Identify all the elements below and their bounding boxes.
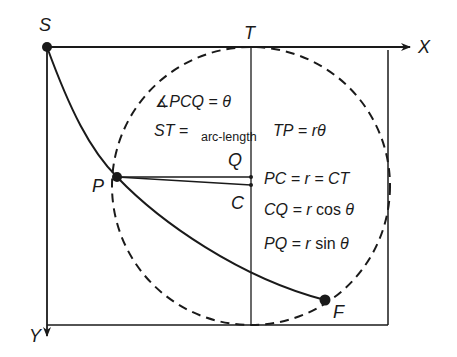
arc-length-subscript: arc-length (201, 130, 257, 144)
angle-symbol: ∡ (155, 93, 169, 110)
point-s (42, 42, 52, 52)
label-s: S (39, 15, 51, 35)
equation-pq: PQ = r sin θ (264, 235, 349, 252)
label-f: F (333, 302, 345, 322)
equation-angle-pcq: ∡PCQ = θ (155, 93, 231, 110)
point-f (320, 295, 331, 306)
label-p: P (92, 176, 104, 196)
equation-pc: PC = r = CT (264, 170, 351, 187)
label-t: T (244, 23, 257, 43)
label-c: C (231, 193, 245, 213)
point-p (112, 172, 122, 182)
point-c (249, 183, 253, 187)
equation-tp: TP = rθ (273, 122, 326, 139)
cycloid-diagram: S T X Y P Q C F ∡PCQ = θ ST = arc-length… (0, 0, 457, 357)
label-q: Q (228, 150, 242, 170)
label-y: Y (29, 326, 43, 346)
equation-st-arc-length: ST = (154, 122, 188, 139)
segment-pc (117, 177, 251, 185)
equation-cq: CQ = r cos θ (264, 201, 354, 218)
label-x: X (417, 37, 431, 57)
point-q (249, 175, 253, 179)
